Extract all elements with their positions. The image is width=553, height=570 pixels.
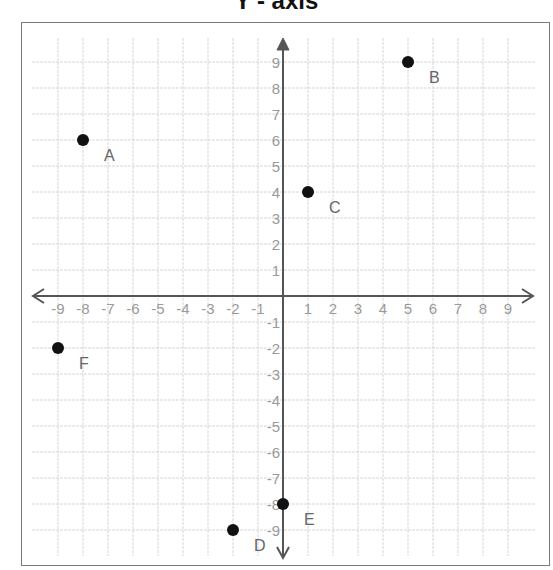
y-tick-label: -3 xyxy=(267,366,280,383)
x-tick-label: 1 xyxy=(304,300,312,317)
x-tick-label: 5 xyxy=(404,300,412,317)
y-tick-label: 4 xyxy=(272,184,280,201)
x-tick-label: 6 xyxy=(429,300,437,317)
y-tick-label: 2 xyxy=(272,236,280,253)
y-tick-label: 9 xyxy=(272,54,280,71)
point-label-b: B xyxy=(429,69,440,86)
arrow-up-icon xyxy=(277,38,289,50)
x-tick-label: -5 xyxy=(151,300,164,317)
x-tick-label: 3 xyxy=(354,300,362,317)
y-tick-label: -2 xyxy=(267,340,280,357)
x-tick-label: 7 xyxy=(454,300,462,317)
y-tick-label: -9 xyxy=(267,522,280,539)
point-d xyxy=(227,524,239,536)
x-tick-label: -1 xyxy=(251,300,264,317)
point-label-e: E xyxy=(304,511,315,528)
y-tick-label: 7 xyxy=(272,106,280,123)
point-label-a: A xyxy=(104,147,115,164)
x-tick-label: 9 xyxy=(504,300,512,317)
point-b xyxy=(402,56,414,68)
y-tick-label: -7 xyxy=(267,470,280,487)
y-tick-label: -4 xyxy=(267,392,280,409)
x-tick-label: -7 xyxy=(101,300,114,317)
x-tick-label: 4 xyxy=(379,300,387,317)
point-a xyxy=(77,134,89,146)
y-tick-label: 6 xyxy=(272,132,280,149)
x-tick-label: -4 xyxy=(176,300,189,317)
coordinate-plane: -9-8-7-6-5-4-3-2-1123456789-9-8-7-6-5-4-… xyxy=(0,0,553,570)
y-tick-label: 3 xyxy=(272,210,280,227)
y-tick-label: 1 xyxy=(272,262,280,279)
point-f xyxy=(52,342,64,354)
x-tick-label: 8 xyxy=(479,300,487,317)
x-tick-label: 2 xyxy=(329,300,337,317)
x-tick-label: -8 xyxy=(76,300,89,317)
y-tick-label: -6 xyxy=(267,444,280,461)
y-tick-label: -1 xyxy=(267,314,280,331)
y-tick-label: 5 xyxy=(272,158,280,175)
point-label-f: F xyxy=(79,355,89,372)
point-e xyxy=(277,498,289,510)
y-tick-label: -5 xyxy=(267,418,280,435)
point-label-c: C xyxy=(329,199,341,216)
x-tick-label: -6 xyxy=(126,300,139,317)
point-c xyxy=(302,186,314,198)
x-tick-label: -3 xyxy=(201,300,214,317)
point-label-d: D xyxy=(254,537,266,554)
y-tick-label: 8 xyxy=(272,80,280,97)
x-tick-label: -9 xyxy=(51,300,64,317)
x-tick-label: -2 xyxy=(226,300,239,317)
